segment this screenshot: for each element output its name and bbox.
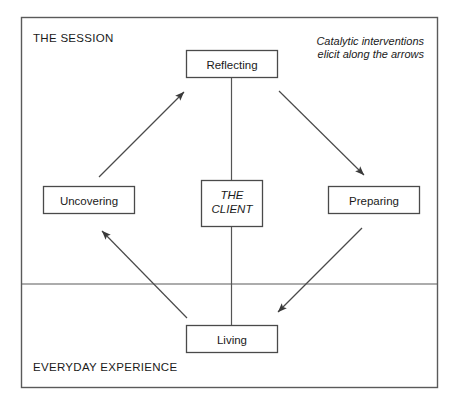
node-living-label: Living [217, 334, 247, 346]
node-preparing[interactable]: Preparing [329, 187, 420, 214]
cycle-diagram-canvas: THE SESSION EVERYDAY EXPERIENCE Catalyti… [0, 0, 455, 405]
node-preparing-label: Preparing [349, 195, 399, 207]
node-reflecting[interactable]: Reflecting [187, 51, 278, 78]
diagram-root: THE SESSION EVERYDAY EXPERIENCE Catalyti… [0, 0, 455, 405]
node-living[interactable]: Living [187, 326, 278, 353]
zone-label-session: THE SESSION [33, 32, 114, 44]
zone-label-everyday-experience: EVERYDAY EXPERIENCE [33, 361, 177, 373]
node-the-client-label-line-1: THE [221, 189, 244, 201]
annotation-line-1: Catalytic interventions [316, 35, 424, 47]
node-uncovering[interactable]: Uncovering [44, 187, 135, 214]
node-reflecting-label: Reflecting [206, 59, 257, 71]
annotation-line-2: elicit along the arrows [318, 48, 425, 60]
node-the-client[interactable]: THE CLIENT [202, 181, 263, 227]
node-the-client-label-line-2: CLIENT [212, 203, 254, 215]
node-uncovering-label: Uncovering [60, 195, 118, 207]
